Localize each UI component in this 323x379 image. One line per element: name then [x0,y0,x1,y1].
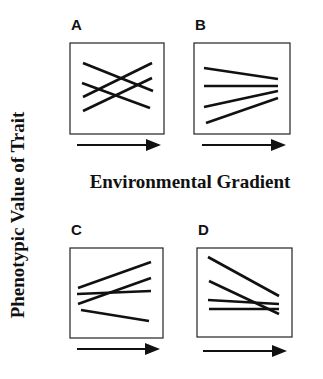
arrow-head-icon [145,343,160,355]
reaction-norm-line [204,68,278,79]
panel-d: D [197,221,292,357]
panel-label: A [71,16,82,33]
reaction-norm-line [206,98,278,123]
reaction-norm-line [204,91,278,107]
arrow-head-icon [272,345,287,357]
panel-label: C [71,221,82,238]
x-axis-label: Environmental Gradient [90,171,291,192]
reaction-norm-figure: Phenotypic Value of Trait Environmental … [0,0,323,379]
reaction-norm-line [208,300,279,304]
arrow-head-icon [146,139,161,151]
arrow-head-icon [271,139,286,151]
plot-frame [194,43,290,134]
reaction-norm-line [78,262,151,288]
panel-label: B [195,16,206,33]
reaction-norm-line [208,257,279,296]
panel-a: A [70,16,164,151]
plot-frame [197,248,292,337]
panel-label: D [198,221,209,238]
y-axis-label: Phenotypic Value of Trait [7,111,28,318]
reaction-norm-line [81,310,149,321]
panel-c: C [70,221,163,355]
panel-b: B [194,16,290,151]
